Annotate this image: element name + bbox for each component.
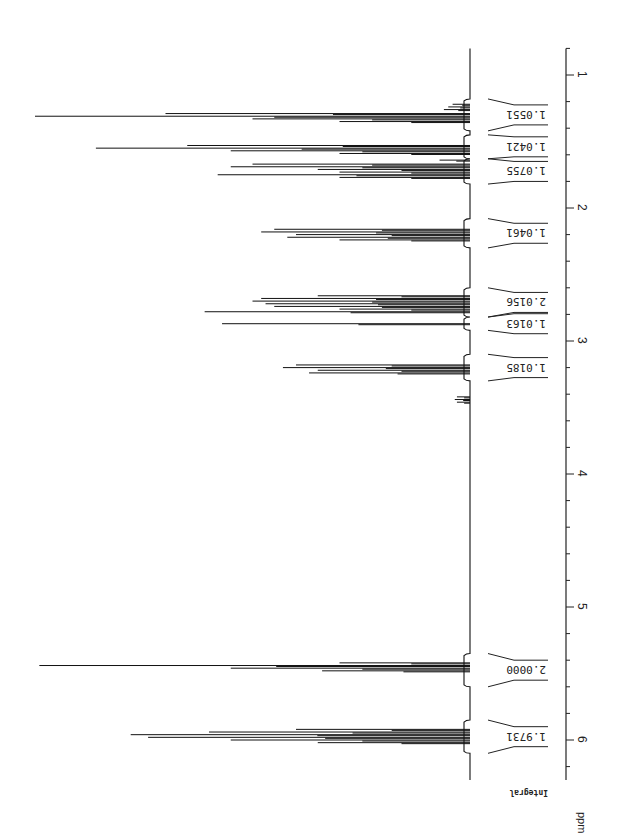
ppm-axis-label: ppm: [576, 812, 588, 833]
integral-regions: 1.05511.04211.07551.04612.01561.01631.01…: [488, 99, 548, 753]
spectrum-peaks: [35, 104, 470, 743]
ppm-axis: 123456: [566, 48, 589, 780]
spectrum-baseline: [464, 48, 470, 780]
integral-region: 1.0461: [488, 219, 548, 248]
axis-tick-label: 3: [575, 337, 589, 344]
nmr-spectrum-chart: 123456 1.05511.04211.07551.04612.01561.0…: [0, 0, 618, 838]
axis-tick-label: 6: [575, 736, 589, 743]
axis-tick-label: 1: [575, 71, 589, 78]
integral-label: Integral: [509, 788, 548, 797]
integral-region: 1.9731: [488, 720, 548, 753]
integral-value: 2.0156: [506, 295, 546, 308]
integral-region: 1.0421: [488, 135, 548, 159]
integral-region: 2.0156: [488, 288, 548, 317]
axis-tick-label: 4: [575, 470, 589, 477]
integral-value: 1.0551: [506, 108, 546, 121]
axis-tick-label: 2: [575, 204, 589, 211]
integral-region: 2.0000: [488, 654, 548, 687]
integral-region: 1.0185: [488, 354, 548, 381]
integral-value: 1.0163: [506, 317, 546, 330]
integral-value: 1.0755: [506, 164, 546, 177]
integral-value: 1.0185: [506, 361, 546, 374]
integral-value: 1.0421: [506, 140, 546, 153]
axis-tick-label: 5: [575, 603, 589, 610]
integral-region: 1.0551: [488, 99, 548, 131]
integral-region: 1.0163: [488, 314, 548, 334]
integral-value: 1.9731: [506, 730, 546, 743]
integral-value: 2.0000: [506, 663, 546, 676]
integral-value: 1.0461: [506, 226, 546, 239]
integral-region: 1.0755: [488, 159, 548, 184]
